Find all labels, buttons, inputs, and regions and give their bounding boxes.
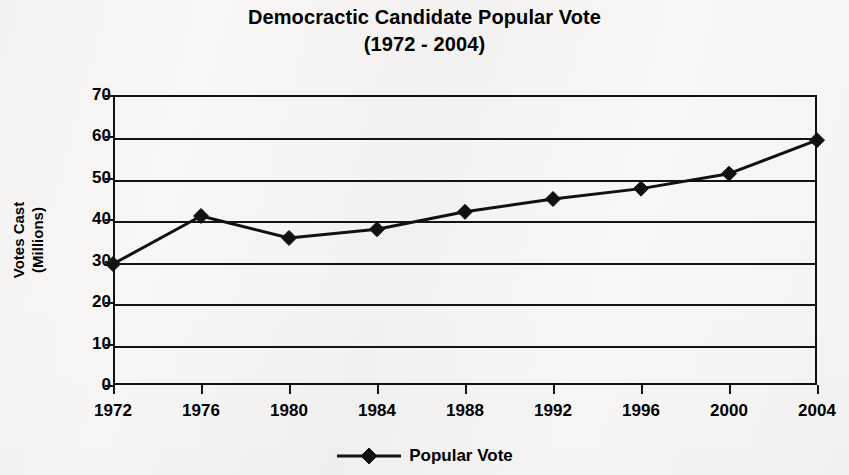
chart-legend: Popular Vote <box>0 446 849 466</box>
data-point-marker <box>634 181 649 196</box>
x-axis-tick-mark <box>377 385 379 394</box>
x-axis-tick-label: 1972 <box>73 400 153 422</box>
data-point-marker <box>810 133 825 148</box>
x-axis-tick-mark <box>465 385 467 394</box>
x-axis-tick-mark <box>817 385 819 394</box>
data-point-marker <box>722 166 737 181</box>
line-chart: Democractic Candidate Popular Vote (1972… <box>0 0 849 475</box>
data-point-marker <box>458 204 473 219</box>
x-axis-tick-label: 1996 <box>601 400 681 422</box>
data-point-marker <box>370 222 385 237</box>
legend-item-label: Popular Vote <box>409 446 513 466</box>
series-1 <box>106 133 825 272</box>
data-point-marker <box>546 191 561 206</box>
x-axis-tick-mark <box>289 385 291 394</box>
data-point-marker <box>282 230 297 245</box>
x-axis-tick-mark <box>553 385 555 394</box>
x-axis-tick-label: 2004 <box>777 400 849 422</box>
x-axis-tick-label: 1992 <box>513 400 593 422</box>
x-axis-tick-mark <box>113 385 115 394</box>
x-axis-tick-label: 2000 <box>689 400 769 422</box>
x-axis-tick-mark <box>729 385 731 394</box>
data-point-marker <box>194 208 209 223</box>
x-axis-tick-label: 1980 <box>249 400 329 422</box>
x-axis-tick-mark <box>201 385 203 394</box>
x-axis-tick-mark <box>641 385 643 394</box>
diamond-marker-icon <box>336 447 402 465</box>
x-axis-tick-marks <box>113 385 817 397</box>
x-axis-tick-labels: 197219761980198419881992199620002004 <box>113 400 817 426</box>
x-axis-tick-label: 1988 <box>425 400 505 422</box>
data-point-marker <box>106 257 121 272</box>
x-axis-tick-label: 1984 <box>337 400 417 422</box>
series-line <box>113 140 817 264</box>
x-axis-tick-label: 1976 <box>161 400 241 422</box>
